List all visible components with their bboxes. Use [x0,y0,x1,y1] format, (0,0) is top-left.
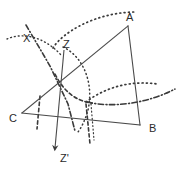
vertex-label-a: A [126,11,134,23]
vertex-label-c: C [9,112,17,124]
axis-label-z: Z [63,38,70,50]
axis-label-z-prime: Z' [60,152,69,164]
triangle-edge-bc [22,113,140,125]
figure-root: X Z Z' A B C [0,0,188,169]
triangle-edge-ab [128,26,140,125]
dash-dot-curve-right [87,89,175,105]
dash-dot-group [26,25,175,131]
great-circle-lower-right-arc [86,83,157,102]
dotted-drop-mid-inner [91,104,94,140]
axis-label-x: X [23,32,31,44]
triangle-abc [22,26,140,125]
z-axis-line [55,50,64,148]
spherical-triangle-diagram: X Z Z' A B C [0,0,188,169]
vertex-label-b: B [149,122,156,134]
z-axis-group [55,50,64,148]
